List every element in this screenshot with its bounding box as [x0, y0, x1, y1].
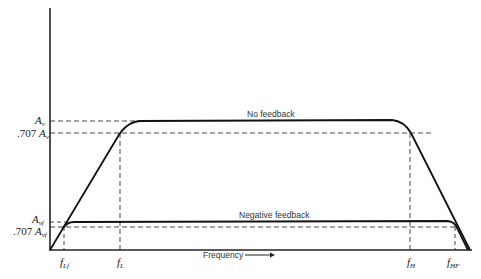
avf707-label: .707 Avf	[13, 226, 47, 239]
fL-label: fL	[117, 257, 124, 270]
negative-feedback-curve	[63, 221, 468, 250]
frequency-axis-label: Frequency	[203, 251, 243, 260]
fLf-label: fLf	[60, 257, 69, 270]
no-feedback-curve	[50, 120, 470, 250]
fHF-label: fHF	[447, 257, 459, 270]
fH-label: fH	[407, 257, 415, 270]
frequency-response-diagram	[0, 0, 481, 279]
av707-label: .707 Av	[17, 128, 49, 141]
frequency-arrowhead	[270, 253, 275, 258]
no-feedback-label: No feedback	[247, 110, 295, 119]
negative-feedback-label: Negative feedback	[239, 211, 309, 220]
